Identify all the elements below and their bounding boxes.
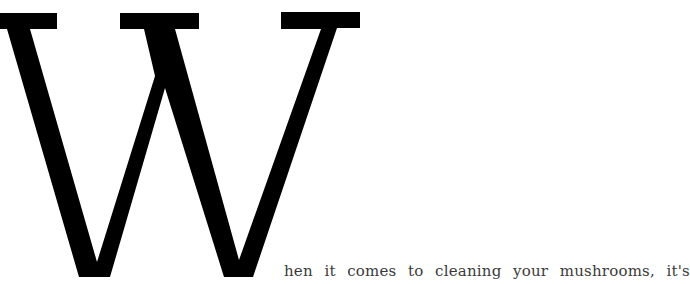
article-first-line: hen it comes to cleaning your mushrooms,… [284,261,690,281]
drop-cap-letter-w [0,0,370,284]
